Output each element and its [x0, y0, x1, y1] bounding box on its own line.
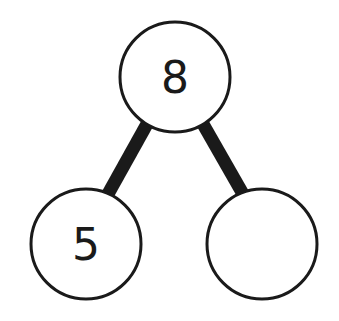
connector-left [108, 124, 147, 194]
part-circle-left: 5 [31, 189, 141, 299]
whole-circle: 8 [120, 22, 230, 132]
connector-right [203, 124, 243, 194]
part-left-value: 5 [72, 219, 100, 270]
part-circle-right[interactable] [207, 189, 317, 299]
number-bond-diagram: 8 5 [0, 0, 339, 321]
whole-value: 8 [161, 52, 189, 103]
